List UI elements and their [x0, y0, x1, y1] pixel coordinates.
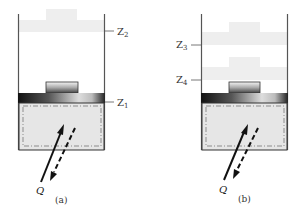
- level-label-z1: Z1: [117, 97, 128, 110]
- weight-upper: [202, 22, 287, 45]
- weight-upper: [19, 9, 104, 32]
- panel-b: Z3 Z4 Q (b): [176, 14, 288, 204]
- piston: [201, 93, 288, 103]
- heat-label-q: Q: [219, 184, 227, 195]
- heat-label-q: Q: [36, 185, 44, 196]
- gas-region: [19, 103, 104, 150]
- level-label-z3: Z3: [176, 39, 187, 52]
- piston-block: [46, 82, 78, 93]
- level-label-z2: Z2: [117, 26, 128, 39]
- piston-cylinder-diagram: Z2 Z1 Q (a): [0, 0, 302, 209]
- panel-a: Z2 Z1 Q (a): [18, 9, 128, 205]
- piston: [18, 93, 105, 103]
- gas-region: [202, 103, 287, 150]
- caption-b: (b): [238, 194, 251, 204]
- caption-a: (a): [55, 195, 67, 205]
- weight-lower: [202, 57, 287, 80]
- piston-block: [229, 82, 260, 93]
- level-label-z4: Z4: [176, 74, 188, 87]
